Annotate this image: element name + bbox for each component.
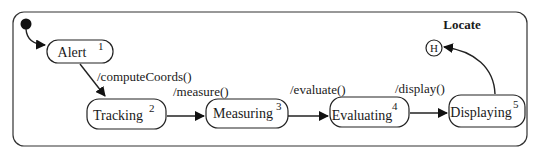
transition-label-measure: /measure() xyxy=(173,84,229,99)
initial-state-dot xyxy=(21,19,32,30)
transition-label-computecoords: /computeCoords() xyxy=(97,69,192,84)
state-tracking-number: 2 xyxy=(149,102,155,114)
state-tracking-label: Tracking xyxy=(93,108,143,123)
transition-initial-to-alert xyxy=(26,29,45,45)
history-state-label: H xyxy=(430,42,438,54)
state-evaluating-number: 4 xyxy=(392,100,398,112)
state-measuring-number: 3 xyxy=(276,100,282,112)
state-tracking: Tracking 2 xyxy=(87,99,166,129)
transition-label-display: /display() xyxy=(395,81,445,96)
state-displaying-label: Displaying xyxy=(450,105,511,120)
state-alert-label: Alert xyxy=(58,45,87,60)
composite-state-title: Locate xyxy=(443,17,481,32)
state-displaying: Displaying 5 xyxy=(449,95,525,127)
state-measuring-label: Measuring xyxy=(213,106,273,121)
state-evaluating: Evaluating 4 xyxy=(330,97,409,127)
state-evaluating-label: Evaluating xyxy=(332,108,393,123)
state-measuring: Measuring 3 xyxy=(206,99,288,128)
history-state: H xyxy=(426,40,442,56)
state-displaying-number: 5 xyxy=(513,98,519,110)
transition-displaying-to-history xyxy=(444,47,495,94)
state-alert: Alert 1 xyxy=(47,40,113,63)
transition-label-evaluate: /evaluate() xyxy=(290,82,346,97)
state-alert-number: 1 xyxy=(98,40,104,52)
state-diagram: Locate Alert 1 /computeCoords() Tracking… xyxy=(0,0,540,154)
